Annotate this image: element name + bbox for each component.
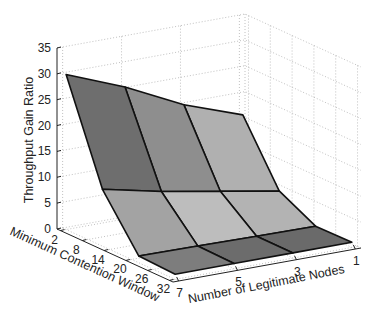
z-axis-label: Throughput Gain Ratio	[22, 77, 36, 204]
surface-chart: 0510152025303528142026327531 Throughput …	[0, 0, 379, 322]
y-tick-label: 7	[176, 286, 183, 300]
z-tick-label: 5	[44, 196, 51, 210]
z-tick-label: 25	[38, 93, 52, 107]
z-tick-label: 30	[38, 67, 52, 81]
z-tick-label: 35	[38, 41, 52, 55]
y-axis-label: Number of Legitimate Nodes	[187, 262, 346, 306]
z-tick-label: 15	[38, 144, 52, 158]
z-tick-label: 20	[38, 119, 52, 133]
z-tick-label: 10	[38, 170, 52, 184]
y-tick-label: 1	[353, 254, 360, 268]
surface-patches	[66, 74, 352, 274]
